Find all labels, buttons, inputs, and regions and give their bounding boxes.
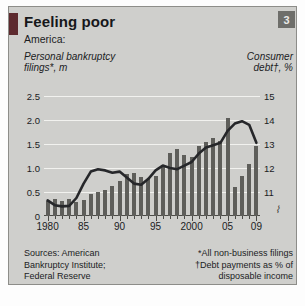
sources-note: Sources: American Bankruptcy Institute; … [24, 248, 106, 283]
x-axis-tick [148, 216, 149, 219]
x-axis-tick-label: 1980 [36, 221, 58, 232]
chart-subtitle: America: [24, 33, 65, 45]
x-axis-tick [184, 216, 185, 219]
sources-line-3: Federal Reserve [24, 271, 106, 283]
x-axis-tick [98, 216, 99, 219]
line-path [48, 121, 257, 206]
x-axis-tick [220, 216, 221, 219]
chart-number-badge: 3 [278, 11, 295, 28]
plot-area: 00.51.01.52.02.5 1112131415 198085909520… [20, 96, 282, 228]
right-axis-tick-label: 12 [264, 163, 275, 174]
left-axis-tick-label: 2.0 [27, 115, 40, 126]
right-axis-title-line2: debt†, % [247, 62, 293, 73]
right-axis-title-line1: Consumer [247, 51, 293, 62]
footnote-line-1: *All non-business filings [195, 248, 293, 260]
left-axis-title-line1: Personal bankruptcy [24, 51, 115, 62]
right-axis: 1112131415 [262, 96, 282, 216]
x-axis-tick-label: 85 [78, 221, 89, 232]
right-axis-tick-label: 14 [264, 115, 275, 126]
x-axis-tick-label: 90 [114, 221, 125, 232]
x-axis-labels: 198085909520000509 [20, 221, 282, 235]
consumer-debt-line [44, 96, 260, 216]
x-axis-tick [76, 216, 77, 219]
left-axis-tick-label: 2.5 [27, 91, 40, 102]
right-axis-tick-label: 13 [264, 139, 275, 150]
right-axis-title: Consumer debt†, % [247, 51, 293, 73]
x-axis-tick-label: 05 [222, 221, 233, 232]
plot-canvas [44, 96, 260, 216]
x-axis-tick-label: 95 [150, 221, 161, 232]
x-axis-tick [127, 216, 128, 219]
sources-line-2: Bankruptcy Institute; [24, 260, 106, 272]
left-axis-tick-label: 0.5 [27, 187, 40, 198]
x-axis-tick-label: 2000 [180, 221, 202, 232]
left-axis-title: Personal bankruptcy filings*, m [24, 51, 115, 73]
left-axis-tick-label: 0 [35, 211, 40, 222]
x-axis-tick [69, 216, 70, 219]
x-axis-tick [170, 216, 171, 219]
left-axis: 00.51.01.52.02.5 [20, 96, 42, 216]
x-axis-tick [242, 216, 243, 219]
x-axis-tick [213, 216, 214, 219]
x-axis-tick [177, 216, 178, 219]
page-title: Feeling poor [24, 13, 115, 30]
x-axis-tick [206, 216, 207, 219]
right-axis-tick-label: 15 [264, 91, 275, 102]
x-axis-tick [91, 216, 92, 219]
x-axis-tick [62, 216, 63, 219]
x-axis-tick [134, 216, 135, 219]
x-axis-tick [235, 216, 236, 219]
x-axis-tick [112, 216, 113, 219]
footnote-line-3: disposable income [195, 271, 293, 283]
left-axis-tick-label: 1.5 [27, 139, 40, 150]
x-axis-tick [55, 216, 56, 219]
x-axis-tick [141, 216, 142, 219]
x-axis-tick [199, 216, 200, 219]
sources-line-1: Sources: American [24, 248, 106, 260]
accent-bar [9, 13, 18, 35]
left-axis-tick-label: 1.0 [27, 163, 40, 174]
footnote-note: *All non-business filings †Debt payments… [195, 248, 293, 283]
x-axis-tick [105, 216, 106, 219]
footnote-line-2: †Debt payments as % of [195, 260, 293, 272]
x-axis-tick-label: 09 [251, 221, 262, 232]
right-axis-tick-label: 11 [264, 187, 274, 198]
left-axis-title-line2: filings*, m [24, 62, 115, 73]
chart-screenshot: Feeling poor 3 America: Personal bankrup… [0, 0, 305, 306]
axis-break-icon: ⌇ [275, 204, 280, 215]
x-axis-tick [163, 216, 164, 219]
x-axis-tick [249, 216, 250, 219]
